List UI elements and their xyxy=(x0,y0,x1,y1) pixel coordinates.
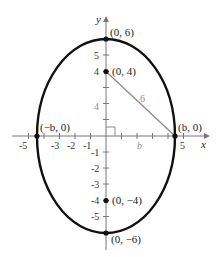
y-axis-label: y xyxy=(95,13,101,25)
y-tick-label: -4 xyxy=(91,195,99,206)
point-top-vertex xyxy=(103,36,108,41)
y-tick-label: -1 xyxy=(91,147,99,158)
bottom-focus-label: (0, −4) xyxy=(112,194,142,207)
point-bottom-vertex xyxy=(103,230,108,235)
hypotenuse-label: 6 xyxy=(140,93,145,104)
vertical-leg-label: 4 xyxy=(94,101,99,112)
y-tick-label: 4 xyxy=(94,66,99,77)
right-covertex-label: (b, 0) xyxy=(178,121,202,134)
ellipse-diagram: y x -5 -3 -2 -1 5 5 4 -1 -2 -3 -4 -5 6 4… xyxy=(0,0,221,257)
horizontal-leg-label: b xyxy=(137,140,142,151)
x-axis xyxy=(12,133,210,139)
point-bottom-focus xyxy=(103,198,108,203)
x-axis-label: x xyxy=(200,138,206,150)
diagram-canvas: y x -5 -3 -2 -1 5 5 4 -1 -2 -3 -4 -5 6 4… xyxy=(0,0,221,257)
y-tick-label: -2 xyxy=(91,163,99,174)
y-tick-label: -5 xyxy=(91,211,99,222)
point-top-focus xyxy=(103,69,108,74)
top-focus-label: (0, 4) xyxy=(112,65,136,78)
y-tick-label: -3 xyxy=(91,179,99,190)
y-axis xyxy=(103,16,109,250)
y-tick-label: 5 xyxy=(94,50,99,61)
x-tick-label: 5 xyxy=(180,140,185,151)
x-tick-label: -5 xyxy=(19,140,27,151)
top-vertex-label: (0, 6) xyxy=(110,26,134,39)
x-tick-label: -3 xyxy=(51,140,59,151)
point-left-covertex xyxy=(34,133,39,138)
bottom-vertex-label: (0, −6) xyxy=(111,233,141,246)
point-right-covertex xyxy=(172,133,177,138)
left-covertex-label: (−b, 0) xyxy=(40,121,70,134)
x-tick-label: -2 xyxy=(67,140,75,151)
